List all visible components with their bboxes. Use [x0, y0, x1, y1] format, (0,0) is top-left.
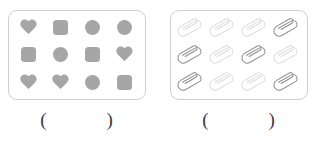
heart-shape — [20, 20, 37, 35]
grid-cell — [77, 69, 109, 96]
paperclip-icon — [174, 68, 206, 96]
grid-cell — [77, 41, 109, 68]
shapes-answer: ( ) — [8, 110, 146, 129]
grid-cell — [45, 41, 77, 68]
paperclip-icon — [206, 41, 238, 69]
grid-cell — [109, 41, 141, 68]
grid-cell — [45, 69, 77, 96]
heart-shape — [116, 47, 133, 62]
grid-cell — [175, 41, 207, 68]
worksheet: ( ) — [0, 0, 316, 146]
paperclip-icon — [206, 68, 238, 96]
circle-shape — [117, 20, 132, 35]
grid-cell — [45, 14, 77, 41]
paperclip-icon — [270, 41, 302, 69]
grid-cell — [109, 14, 141, 41]
paperclips-answer: ( ) — [170, 110, 308, 129]
square-shape — [85, 47, 100, 62]
grid-cell — [13, 69, 45, 96]
square-shape — [53, 20, 68, 35]
paren-open: ( — [202, 110, 208, 129]
paren-close: ) — [269, 110, 275, 129]
grid-cell — [109, 69, 141, 96]
square-shape — [21, 47, 36, 62]
paperclip-icon — [238, 41, 270, 69]
paperclip-icon — [270, 68, 302, 96]
heart-shape — [52, 75, 69, 90]
paperclip-icon — [206, 14, 238, 42]
paren-open: ( — [40, 110, 46, 129]
grid-cell — [239, 14, 271, 41]
grid-cell — [239, 41, 271, 68]
paperclip-icon — [174, 41, 206, 69]
grid-cell — [13, 14, 45, 41]
circle-shape — [85, 20, 100, 35]
grid-cell — [271, 69, 303, 96]
paperclip-icon — [270, 14, 302, 42]
paperclip-icon — [174, 14, 206, 42]
square-shape — [117, 75, 132, 90]
paperclip-icon — [238, 14, 270, 42]
shapes-group: ( ) — [0, 0, 152, 129]
grid-cell — [239, 69, 271, 96]
paperclips-group: ( ) — [162, 0, 314, 129]
paperclips-box — [170, 10, 308, 100]
grid-cell — [13, 41, 45, 68]
grid-cell — [77, 14, 109, 41]
grid-cell — [175, 14, 207, 41]
grid-cell — [271, 14, 303, 41]
paren-close: ) — [107, 110, 113, 129]
heart-shape — [20, 75, 37, 90]
grid-cell — [207, 14, 239, 41]
circle-shape — [53, 47, 68, 62]
paperclip-icon — [238, 68, 270, 96]
shapes-box — [8, 10, 146, 100]
grid-cell — [207, 41, 239, 68]
grid-cell — [175, 69, 207, 96]
grid-cell — [271, 41, 303, 68]
circle-shape — [85, 75, 100, 90]
grid-cell — [207, 69, 239, 96]
